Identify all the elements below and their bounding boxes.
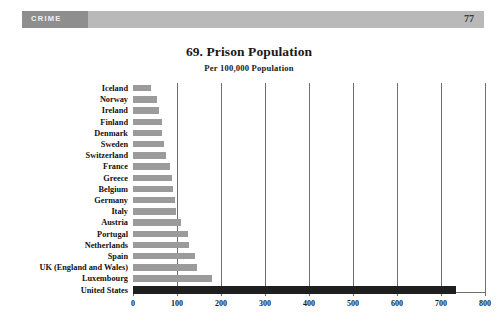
bar: [133, 130, 162, 136]
chart-row: UK (England and Wales): [0, 262, 498, 273]
bar: [133, 231, 188, 237]
bar: [133, 119, 162, 125]
category-label: Austria: [101, 218, 128, 227]
bar: [133, 264, 197, 270]
x-axis-tick-label: 200: [215, 299, 227, 308]
chart-row: Italy: [0, 206, 498, 217]
category-label: Germany: [94, 196, 128, 205]
x-axis-tick-label: 100: [171, 299, 183, 308]
bar: [133, 85, 151, 91]
chart-row: United States: [0, 285, 498, 296]
category-label: United States: [81, 286, 128, 295]
category-label: Belgium: [98, 185, 128, 194]
category-label: Spain: [108, 252, 128, 261]
chart-row: Germany: [0, 195, 498, 206]
bar: [133, 141, 164, 147]
bar: [133, 152, 166, 158]
x-axis-tick-label: 400: [303, 299, 315, 308]
chart-row: Finland: [0, 117, 498, 128]
chart-row: Norway: [0, 94, 498, 105]
category-label: UK (England and Wales): [39, 263, 128, 272]
bar: [133, 197, 175, 203]
chart-row: Switzerland: [0, 150, 498, 161]
category-label: Italy: [111, 207, 128, 216]
chart-row: Ireland: [0, 105, 498, 116]
x-axis-tick-label: 0: [131, 299, 135, 308]
bar: [133, 208, 176, 214]
chart-row: Luxembourg: [0, 273, 498, 284]
category-label: Ireland: [102, 106, 128, 115]
x-axis-tick-label: 600: [391, 299, 403, 308]
bar: [133, 186, 173, 192]
category-label: Iceland: [102, 84, 128, 93]
bar: [133, 253, 195, 259]
bar: [133, 219, 181, 225]
x-axis-tick-label: 800: [479, 299, 491, 308]
bar: [133, 242, 189, 248]
x-axis-tick-label: 500: [347, 299, 359, 308]
bar-chart: 0100200300400500600700800IcelandNorwayIr…: [0, 0, 498, 321]
category-label: Norway: [100, 95, 128, 104]
chart-row: Denmark: [0, 128, 498, 139]
chart-row: Netherlands: [0, 240, 498, 251]
chart-row: Spain: [0, 251, 498, 262]
chart-row: Greece: [0, 173, 498, 184]
category-label: Switzerland: [86, 151, 128, 160]
x-axis-tick-label: 700: [435, 299, 447, 308]
category-label: Greece: [103, 174, 128, 183]
bar: [133, 286, 456, 294]
chart-row: France: [0, 161, 498, 172]
bar: [133, 96, 157, 102]
x-axis-tick-label: 300: [259, 299, 271, 308]
chart-row: Austria: [0, 217, 498, 228]
category-label: Denmark: [94, 129, 128, 138]
chart-row: Belgium: [0, 184, 498, 195]
bar: [133, 163, 170, 169]
category-label: Portugal: [97, 230, 128, 239]
category-label: France: [103, 162, 128, 171]
chart-row: Iceland: [0, 83, 498, 94]
category-label: Luxembourg: [82, 274, 128, 283]
category-label: Finland: [100, 118, 128, 127]
bar: [133, 107, 159, 113]
chart-row: Sweden: [0, 139, 498, 150]
bar: [133, 175, 172, 181]
category-label: Netherlands: [85, 241, 128, 250]
category-label: Sweden: [101, 140, 128, 149]
chart-row: Portugal: [0, 229, 498, 240]
bar: [133, 275, 212, 281]
